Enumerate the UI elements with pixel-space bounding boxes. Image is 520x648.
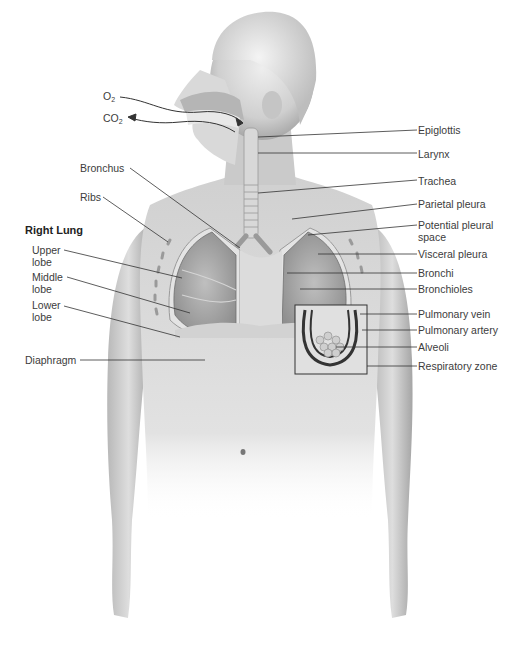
label-alveoli: Alveoli (418, 341, 449, 353)
label-potential-pleural-space: Potential pleural space (418, 219, 510, 243)
label-middle-lobe: Middle lobe (32, 271, 68, 295)
label-diaphragm: Diaphragm (25, 354, 76, 366)
label-upper-lobe: Upper lobe (32, 244, 68, 268)
label-bronchi: Bronchi (418, 267, 454, 279)
label-pulmonary-vein: Pulmonary vein (418, 308, 490, 320)
label-pulmonary-artery: Pulmonary artery (418, 324, 498, 336)
label-ribs: Ribs (80, 191, 101, 203)
navel (241, 449, 246, 455)
right-lung-heading: Right Lung (25, 224, 83, 236)
label-bronchus: Bronchus (80, 162, 124, 174)
label-epiglottis: Epiglottis (418, 124, 461, 136)
respiratory-zone-inset (295, 305, 367, 374)
oxygen-label: O2 (103, 90, 115, 106)
label-bronchioles: Bronchioles (418, 283, 473, 295)
carbon-dioxide-label: CO2 (103, 112, 123, 128)
label-visceral-pleura: Visceral pleura (418, 248, 487, 260)
label-parietal-pleura: Parietal pleura (418, 198, 486, 210)
label-lower-lobe: Lower lobe (32, 299, 68, 323)
label-respiratory-zone: Respiratory zone (418, 360, 497, 372)
label-larynx: Larynx (418, 148, 450, 160)
label-trachea: Trachea (418, 175, 456, 187)
